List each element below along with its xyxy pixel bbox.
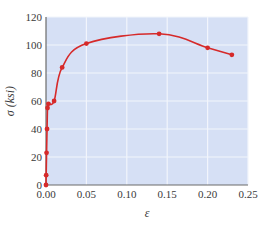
data-point [84, 41, 89, 46]
data-point [46, 101, 51, 106]
data-point [45, 106, 50, 111]
data-point [157, 31, 162, 36]
y-tick-label: 80 [31, 67, 43, 79]
data-point [45, 127, 50, 132]
stress-strain-chart: 020406080100120 0.000.050.100.150.200.25… [0, 0, 266, 229]
y-tick-label: 60 [31, 95, 43, 107]
y-axis-label: σ (ksi) [3, 86, 17, 116]
data-point [44, 183, 49, 188]
data-point [44, 173, 49, 178]
x-tick-label: 0.25 [238, 188, 258, 200]
x-tick-label: 0.15 [158, 188, 178, 200]
y-tick-labels: 020406080100120 [26, 11, 43, 191]
x-tick-label: 0.05 [77, 188, 97, 200]
data-point [44, 150, 49, 155]
y-tick-label: 120 [26, 11, 43, 23]
data-point [205, 45, 210, 50]
y-tick-label: 20 [31, 151, 43, 163]
data-point [52, 99, 57, 104]
x-axis-label: ε [145, 206, 150, 220]
x-tick-label: 0.10 [117, 188, 137, 200]
y-tick-label: 100 [26, 39, 43, 51]
data-point [60, 65, 65, 70]
data-point [229, 52, 234, 57]
x-tick-label: 0.00 [36, 188, 56, 200]
y-tick-label: 40 [31, 123, 43, 135]
x-tick-label: 0.20 [198, 188, 218, 200]
x-tick-labels: 0.000.050.100.150.200.25 [36, 188, 258, 200]
